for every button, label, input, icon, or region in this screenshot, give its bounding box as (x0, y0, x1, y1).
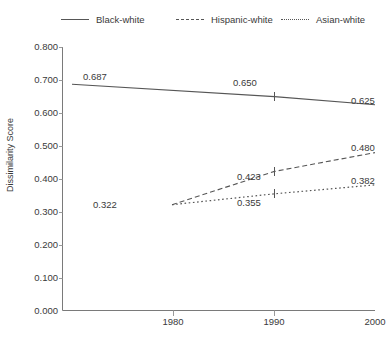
data-label-black-white-2000: 0.625 (351, 96, 375, 106)
data-label-1980-shared: 0.322 (93, 200, 117, 210)
series-line-hispanic-white (172, 153, 375, 205)
data-label-asian-white-2000: 0.382 (351, 176, 375, 186)
data-label-asian-white-1990: 0.355 (237, 198, 261, 208)
data-label-black-white-1980: 0.687 (83, 72, 107, 82)
dissimilarity-score-line-chart: Black-white Hispanic-white Asian-white D… (0, 0, 389, 345)
series-line-black-white (72, 84, 375, 105)
y-axis-ticks (59, 48, 63, 279)
x-axis-ticks (174, 311, 275, 317)
data-label-hispanic-white-1990: 0.423 (237, 172, 261, 182)
data-label-hispanic-white-2000: 0.480 (351, 143, 375, 153)
data-label-black-white-1990: 0.650 (233, 78, 257, 88)
plot-area (0, 0, 389, 345)
